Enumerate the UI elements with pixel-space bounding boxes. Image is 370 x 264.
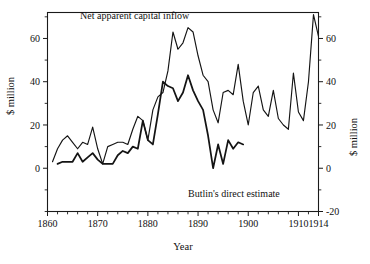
axis-labels: 18601870188018901900191019140204060-2002… — [5, 33, 359, 251]
series-annotation-1: Net apparent capital inflow — [80, 10, 190, 21]
y-right-tick-label: 0 — [326, 163, 331, 174]
axis-ticks — [43, 17, 323, 216]
y-left-tick-label: 0 — [35, 163, 40, 174]
x-tick-label: 1860 — [38, 218, 58, 229]
y-left-axis-title: $ million — [5, 76, 16, 115]
x-tick-label: 1910 — [288, 218, 308, 229]
capital-inflow-line-chart: 18601870188018901900191019140204060-2002… — [0, 0, 370, 264]
y-right-tick-label: 60 — [326, 33, 336, 44]
x-tick-label: 1914 — [309, 218, 329, 229]
x-tick-label: 1880 — [138, 218, 158, 229]
y-left-tick-label: 60 — [30, 33, 40, 44]
x-tick-label: 1890 — [188, 218, 208, 229]
series-annotation-2: Butlin's direct estimate — [188, 188, 280, 199]
y-left-tick-label: 20 — [30, 120, 40, 131]
y-right-axis-title: $ million — [348, 117, 359, 156]
data-series — [53, 15, 319, 169]
series-annotations: Net apparent capital inflowButlin's dire… — [80, 10, 280, 199]
y-right-tick-label: 20 — [326, 120, 336, 131]
x-tick-label: 1870 — [88, 218, 108, 229]
x-tick-label: 1900 — [238, 218, 258, 229]
series-line-1 — [53, 15, 319, 164]
y-left-tick-label: 40 — [30, 76, 40, 87]
y-right-tick-label: 40 — [326, 76, 336, 87]
y-right-tick-label: -20 — [326, 206, 339, 217]
x-axis-title: Year — [173, 241, 193, 252]
chart-figure: 18601870188018901900191019140204060-2002… — [0, 0, 370, 264]
